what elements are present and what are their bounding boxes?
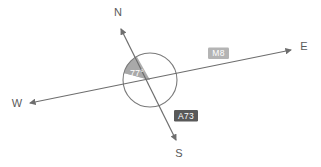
- north-south-road-line: [121, 29, 176, 140]
- compass-label-west: W: [12, 97, 23, 109]
- compass-label-south: S: [175, 147, 183, 159]
- west-east-axis-line: [30, 50, 291, 103]
- road-badge-a73-label: A73: [178, 111, 194, 121]
- road-badge-m8: M8: [208, 48, 229, 60]
- compass-road-diagram: N E S W 77° M8 A73: [0, 0, 321, 167]
- road-badge-m8-label: M8: [212, 48, 224, 58]
- geometry-diagram-canvas: N E S W 77° M8 A73: [0, 0, 321, 167]
- road-badge-a73: A73: [174, 110, 198, 122]
- angle-value-label: 77°: [130, 68, 144, 78]
- compass-label-east: E: [300, 40, 308, 52]
- compass-label-north: N: [114, 6, 122, 18]
